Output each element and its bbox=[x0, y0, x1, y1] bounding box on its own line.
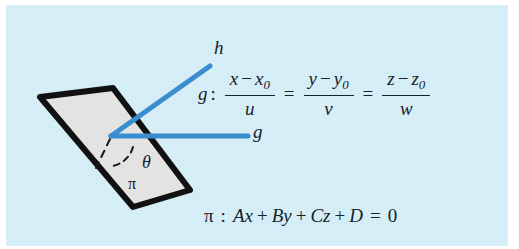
plane-equation-plus-1: + bbox=[253, 205, 272, 226]
plane-equation: π:Ax+By+Cz+D=0 bbox=[204, 205, 397, 227]
plane-equation-plus-2: + bbox=[292, 205, 311, 226]
figure-container: h g θ π g : x−x0 u = y−y0 v = z−z0 w π:A… bbox=[0, 0, 519, 249]
line-equation-name: g bbox=[198, 83, 208, 105]
fraction-x-denominator: u bbox=[240, 96, 260, 120]
plane-equation-term-c: Cz bbox=[310, 205, 330, 226]
fraction-x-num-sub: 0 bbox=[263, 77, 269, 92]
fraction-y-num-sub: 0 bbox=[342, 77, 348, 92]
plane-equation-term-b: By bbox=[272, 205, 292, 226]
fraction-y-numerator: y−y0 bbox=[304, 68, 354, 95]
label-plane-pi: π bbox=[128, 176, 136, 192]
line-equation-colon: : bbox=[211, 83, 216, 105]
fraction-z: z−z0 w bbox=[382, 68, 430, 120]
line-equation-equals-1: = bbox=[284, 83, 295, 105]
plane-equation-term-d: D bbox=[349, 205, 363, 226]
line-equation-equals-2: = bbox=[363, 83, 374, 105]
fraction-y-num-point: y bbox=[334, 68, 342, 89]
fraction-z-num-var: z bbox=[387, 68, 394, 89]
plane-equation-name: π bbox=[204, 205, 214, 226]
fraction-y-minus: − bbox=[317, 68, 334, 89]
label-line-h: h bbox=[214, 38, 224, 57]
fraction-z-num-point: z bbox=[411, 68, 418, 89]
fraction-z-minus: − bbox=[395, 68, 412, 89]
fraction-x-numerator: x−x0 bbox=[225, 68, 275, 95]
plane-polygon bbox=[40, 88, 190, 207]
fraction-x-num-var: x bbox=[230, 68, 238, 89]
plane-equation-rhs: 0 bbox=[388, 205, 398, 226]
plane-equation-colon: : bbox=[214, 205, 233, 226]
fraction-y-num-var: y bbox=[309, 68, 317, 89]
fraction-z-denominator: w bbox=[395, 96, 418, 120]
plane-equation-term-a: Ax bbox=[233, 205, 253, 226]
fraction-z-num-sub: 0 bbox=[419, 77, 425, 92]
fraction-x: x−x0 u bbox=[225, 68, 275, 120]
fraction-x-minus: − bbox=[238, 68, 255, 89]
label-line-g: g bbox=[253, 122, 263, 141]
line-equation: g : x−x0 u = y−y0 v = z−z0 w bbox=[198, 68, 430, 120]
fraction-y-denominator: v bbox=[319, 96, 337, 120]
label-angle-theta: θ bbox=[142, 153, 151, 171]
fraction-y: y−y0 v bbox=[304, 68, 354, 120]
fraction-z-numerator: z−z0 bbox=[382, 68, 430, 95]
plane-equation-plus-3: + bbox=[330, 205, 349, 226]
plane-equation-equals: = bbox=[363, 205, 388, 226]
